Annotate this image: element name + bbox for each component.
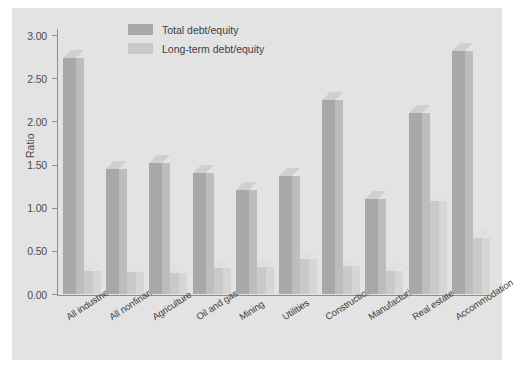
bar-top-face: [409, 105, 430, 113]
bar-side-face: [482, 238, 490, 294]
bar-side-face: [292, 176, 300, 294]
y-axis-tick-label: 0.00: [27, 289, 47, 301]
bar-front-face: [279, 176, 292, 294]
bar-group: [187, 20, 230, 295]
bar-side-face: [162, 163, 170, 294]
y-axis-tick-label: 2.50: [27, 73, 47, 85]
bar-group: [143, 20, 186, 295]
bar-side-face: [223, 268, 231, 294]
bar-total-debt-equity: [409, 113, 422, 294]
bar-side-face: [352, 266, 360, 294]
bar-front-face: [193, 173, 206, 294]
bar-side-face: [378, 199, 386, 294]
bar-front-face: [322, 100, 335, 294]
bar-front-face: [149, 163, 162, 294]
bar-side-face: [76, 58, 84, 294]
bar-side-face: [309, 259, 317, 294]
bar-side-face: [179, 273, 187, 294]
bar-side-face: [266, 267, 274, 294]
bar-group: [359, 20, 402, 295]
plot-area: 0.000.501.001.502.002.503.00 All industr…: [57, 21, 489, 296]
bar-group: [446, 20, 489, 295]
y-axis-tick-label: 1.00: [27, 202, 47, 214]
bar-group: [100, 20, 143, 295]
bar-group: [403, 20, 446, 295]
y-axis-title: Ratio: [24, 133, 36, 158]
x-axis-label: Mining: [237, 298, 266, 322]
bar-group: [230, 20, 273, 295]
bar-top-face: [322, 92, 343, 100]
x-axis-label: Utilities: [280, 297, 311, 322]
bar-total-debt-equity: [452, 51, 465, 294]
bar-side-face: [422, 113, 430, 294]
bar-side-face: [439, 201, 447, 294]
chart-legend: Total debt/equityLong-term debt/equity: [128, 21, 264, 59]
bar-total-debt-equity: [279, 176, 292, 294]
bar-total-debt-equity: [63, 58, 76, 294]
y-axis-tick-label: 3.00: [27, 30, 47, 42]
bar-side-face: [119, 169, 127, 294]
bar-top-face: [149, 155, 170, 163]
bar-total-debt-equity: [322, 100, 335, 294]
bar-side-face: [395, 271, 403, 294]
bar-front-face: [452, 51, 465, 294]
bar-group: [57, 20, 100, 295]
bar-side-face: [93, 271, 101, 294]
bar-group: [273, 20, 316, 295]
bar-top-face: [279, 168, 300, 176]
legend-item: Long-term debt/equity: [128, 40, 264, 57]
bar-front-face: [365, 199, 378, 294]
bar-side-face: [249, 190, 257, 294]
bar-front-face: [236, 190, 249, 294]
bar-total-debt-equity: [149, 163, 162, 294]
legend-item-label: Total debt/equity: [162, 24, 238, 36]
bar-side-face: [136, 272, 144, 294]
bar-front-face: [63, 58, 76, 294]
bar-total-debt-equity: [236, 190, 249, 294]
bar-total-debt-equity: [106, 169, 119, 294]
legend-swatch-icon: [128, 24, 153, 35]
bar-top-face: [106, 161, 127, 169]
legend-item: Total debt/equity: [128, 21, 264, 38]
bar-front-face: [409, 113, 422, 294]
bar-front-face: [106, 169, 119, 294]
y-axis-tick-label: 1.50: [27, 159, 47, 171]
bar-side-face: [335, 100, 343, 294]
bar-total-debt-equity: [193, 173, 206, 294]
chart-panel: Ratio 0.000.501.001.502.002.503.00 All i…: [12, 8, 502, 360]
legend-item-label: Long-term debt/equity: [162, 43, 264, 55]
bar-top-face: [193, 165, 214, 173]
bar-side-face: [206, 173, 214, 294]
bar-side-face: [465, 51, 473, 294]
bar-top-face: [63, 50, 84, 58]
y-axis-tick-label: 2.00: [27, 116, 47, 128]
bar-top-face: [365, 191, 386, 199]
bar-top-face: [452, 43, 473, 51]
x-axis-line: [57, 295, 489, 296]
legend-swatch-icon: [128, 43, 153, 54]
y-axis-tick-label: 0.50: [27, 245, 47, 257]
bar-group: [316, 20, 359, 295]
bar-top-face: [236, 182, 257, 190]
bar-total-debt-equity: [365, 199, 378, 294]
